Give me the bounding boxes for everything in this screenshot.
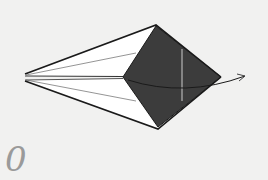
center-double-line-top (25, 76, 123, 77)
origami-diagram: 0 (0, 0, 268, 180)
step-number: 0 (5, 142, 27, 176)
diagram-canvas (0, 0, 268, 180)
